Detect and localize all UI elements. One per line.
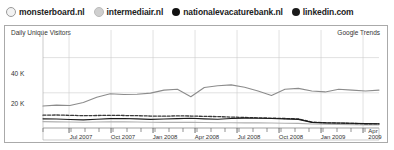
- circle-icon: [292, 8, 300, 16]
- chart-legend: monsterboard.nl intermediair.nl national…: [0, 0, 394, 24]
- legend-item-nationalevacaturebank[interactable]: nationalevacaturebank.nl: [172, 7, 283, 17]
- y-axis-tick-40k: 40 K: [11, 70, 24, 77]
- legend-item-monsterboard[interactable]: monsterboard.nl: [6, 7, 85, 17]
- legend-item-intermediair[interactable]: intermediair.nl: [94, 7, 164, 17]
- chart-screenshot: monsterboard.nl intermediair.nl national…: [0, 0, 394, 150]
- legend-item-linkedin[interactable]: linkedin.com: [292, 7, 354, 17]
- legend-label: linkedin.com: [303, 7, 354, 17]
- legend-label: nationalevacaturebank.nl: [183, 7, 283, 17]
- plot-area: [5, 26, 387, 142]
- y-axis-tick-20k: 20 K: [11, 100, 24, 107]
- circle-icon: [172, 8, 180, 16]
- chart-svg: [5, 26, 387, 142]
- chart-panel: Daily Unique Visitors Google Trends 40 K…: [4, 25, 388, 143]
- legend-label: intermediair.nl: [107, 7, 164, 17]
- circle-icon: [6, 7, 16, 17]
- legend-label: monsterboard.nl: [19, 7, 85, 17]
- circle-icon: [94, 7, 104, 17]
